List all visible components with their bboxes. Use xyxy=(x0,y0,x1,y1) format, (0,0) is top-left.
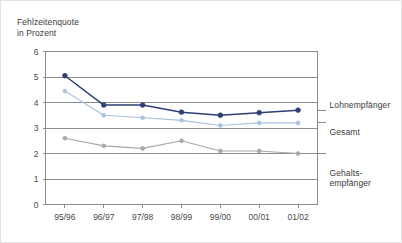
legend-leader-lines-group xyxy=(318,110,326,153)
svg-text:2: 2 xyxy=(34,149,39,159)
chart-figure: Fehlzeitenquotein Prozent 0123456 95/969… xyxy=(0,0,402,243)
y-axis-labels-group: 0123456 xyxy=(34,47,39,210)
svg-text:95/96: 95/96 xyxy=(54,212,76,222)
x-axis-labels-group: 95/9696/9797/9898/9999/0000/0101/02 xyxy=(54,212,309,222)
legend-label-gehaltsempfaenger: Gehalts-empfänger xyxy=(330,168,372,189)
svg-text:4: 4 xyxy=(34,98,39,108)
legend-label-line-2: empfänger xyxy=(330,178,372,188)
svg-text:00/01: 00/01 xyxy=(249,212,271,222)
svg-text:99/00: 99/00 xyxy=(210,212,232,222)
svg-text:5: 5 xyxy=(34,72,39,82)
legend-label-lohnempfaenger: Lohnempfänger xyxy=(330,100,391,111)
data-series-group xyxy=(63,73,301,155)
svg-text:97/98: 97/98 xyxy=(132,212,154,222)
plot-area-wrapper: 0123456 95/9696/9797/9898/9999/0000/0101… xyxy=(1,1,402,243)
svg-text:0: 0 xyxy=(34,200,39,210)
svg-text:1: 1 xyxy=(34,174,39,184)
svg-text:6: 6 xyxy=(34,47,39,57)
line-chart-svg: 0123456 95/9696/9797/9898/9999/0000/0101… xyxy=(1,1,402,243)
gridlines-group xyxy=(46,52,318,180)
svg-text:98/99: 98/99 xyxy=(171,212,193,222)
legend-label-line-1: Gehalts- xyxy=(330,168,363,178)
svg-text:96/97: 96/97 xyxy=(93,212,115,222)
legend-label-gesamt: Gesamt xyxy=(330,127,360,138)
svg-text:3: 3 xyxy=(34,123,39,133)
svg-text:01/02: 01/02 xyxy=(287,212,309,222)
